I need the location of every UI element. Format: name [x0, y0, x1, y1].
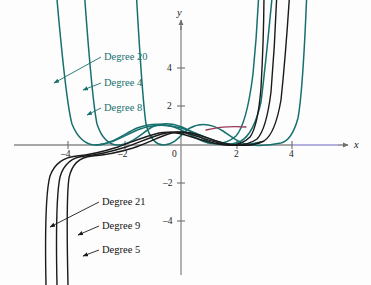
annotation-degree-9: Degree 9	[102, 221, 140, 232]
y-axis-label: y	[177, 8, 182, 19]
leader-degree-9	[78, 226, 99, 235]
annotation-degree-8: Degree 8	[104, 103, 142, 114]
annotation-degree-21: Degree 21	[102, 197, 145, 208]
annotation-degree-20: Degree 20	[104, 52, 147, 63]
x-tick-label-neg2: –2	[118, 150, 128, 160]
x-axis-label: x	[354, 140, 359, 151]
x-tick-label-zero: 0	[172, 150, 177, 160]
curve-degree-8	[84, 0, 273, 145]
curve-degree-5	[45, 0, 264, 285]
x-tick-label-4: 4	[289, 150, 294, 160]
taylor-polynomial-plot	[0, 0, 371, 285]
leader-degree-5	[83, 250, 99, 256]
curve-degree-9	[56, 0, 277, 285]
annotation-degree-4: Degree 4	[104, 78, 142, 89]
x-tick-label-neg4: –4	[61, 150, 71, 160]
axis-group	[14, 20, 348, 275]
y-tick-label-4: 4	[167, 64, 172, 74]
annotation-degree-5: Degree 5	[102, 245, 140, 256]
y-tick-label-2: 2	[167, 102, 172, 112]
x-tick-label-2: 2	[234, 150, 239, 160]
leader-degree-20	[54, 57, 101, 83]
y-tick-label-neg4: –4	[163, 217, 173, 227]
y-tick-label-neg2: –2	[163, 179, 173, 189]
chart-figure: y x –4 –2 0 2 4 4 2 –2 –4 Degree 20 Degr…	[0, 0, 371, 285]
